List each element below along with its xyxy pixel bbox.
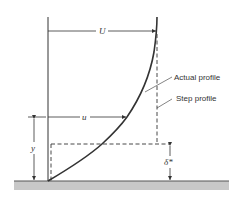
height-label: y: [30, 143, 35, 153]
local-velocity-label: u: [82, 112, 87, 122]
step-profile-label: Step profile: [176, 94, 217, 103]
step-profile-leader: [157, 99, 172, 108]
free-stream-velocity-label: U: [99, 26, 106, 36]
displacement-thickness-label: δ*: [164, 157, 173, 167]
ground-surface: [14, 181, 229, 190]
step-profile: [51, 34, 170, 181]
actual-profile-curve: [48, 17, 157, 181]
actual-profile-label: Actual profile: [174, 73, 221, 82]
actual-profile-leader: [145, 77, 172, 92]
boundary-layer-diagram: U u y δ* Actual profile Step profile: [0, 0, 241, 202]
